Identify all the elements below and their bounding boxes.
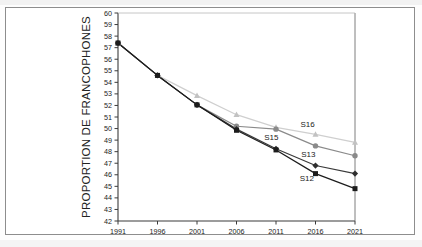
series-annotation-s12: S12 bbox=[300, 174, 315, 183]
data-point-s12 bbox=[195, 102, 200, 107]
x-tick-label: 1991 bbox=[110, 227, 126, 236]
y-tick-label: 49 bbox=[104, 136, 112, 145]
x-tick-label: 2006 bbox=[229, 227, 245, 236]
data-point-s13 bbox=[312, 162, 318, 168]
series-annotation-s15: S15 bbox=[264, 133, 279, 142]
data-point-s12 bbox=[274, 147, 279, 152]
x-axis: 1991199620012006201120162021 bbox=[110, 221, 363, 236]
data-point-s13 bbox=[352, 171, 358, 177]
x-tick-label: 2011 bbox=[268, 227, 283, 236]
y-tick-label: 44 bbox=[104, 193, 112, 202]
x-axis-tick-labels: 1991199620012006201120162021 bbox=[110, 227, 363, 236]
data-point-s12 bbox=[155, 73, 160, 78]
y-tick-label: 51 bbox=[104, 113, 112, 122]
series-annotation-s16: S16 bbox=[300, 120, 315, 129]
y-tick-label: 48 bbox=[104, 147, 112, 156]
y-axis-title: PROPORTION DE FRANCOPHONES bbox=[80, 16, 92, 218]
x-tick-label: 2016 bbox=[308, 227, 324, 236]
y-tick-label: 47 bbox=[104, 159, 112, 168]
series-markers-group bbox=[115, 40, 358, 191]
data-point-s12 bbox=[234, 128, 239, 133]
y-tick-label: 60 bbox=[104, 9, 112, 18]
data-point-s15 bbox=[313, 143, 318, 148]
data-point-s15 bbox=[352, 153, 357, 158]
x-tick-label: 2001 bbox=[189, 227, 205, 236]
y-tick-label: 53 bbox=[104, 89, 112, 98]
y-axis-tick-labels: 42434445464748495051525354555657585960 bbox=[104, 9, 112, 226]
y-tick-label: 56 bbox=[104, 55, 112, 64]
figure-container: 42434445464748495051525354555657585960 1… bbox=[0, 0, 422, 247]
y-tick-label: 59 bbox=[104, 20, 112, 29]
x-tick-label: 2021 bbox=[347, 227, 363, 236]
data-point-s12 bbox=[116, 41, 121, 46]
y-tick-label: 52 bbox=[104, 101, 112, 110]
series-line-s15 bbox=[118, 43, 355, 156]
y-tick-label: 46 bbox=[104, 170, 112, 179]
data-point-s12 bbox=[353, 186, 358, 191]
line-chart: 42434445464748495051525354555657585960 1… bbox=[0, 0, 422, 247]
y-tick-label: 50 bbox=[104, 124, 112, 133]
data-point-s16 bbox=[194, 92, 200, 98]
data-point-s15 bbox=[273, 126, 278, 131]
x-tick-label: 1996 bbox=[150, 227, 166, 236]
y-tick-label: 43 bbox=[104, 205, 112, 214]
y-tick-label: 57 bbox=[104, 43, 112, 52]
y-tick-label: 45 bbox=[104, 182, 112, 191]
series-annotation-s13: S13 bbox=[301, 150, 316, 159]
y-tick-label: 54 bbox=[104, 78, 112, 87]
series-line-s13 bbox=[118, 43, 355, 174]
y-tick-label: 42 bbox=[104, 217, 112, 226]
y-tick-label: 55 bbox=[104, 66, 112, 75]
y-tick-label: 58 bbox=[104, 32, 112, 41]
